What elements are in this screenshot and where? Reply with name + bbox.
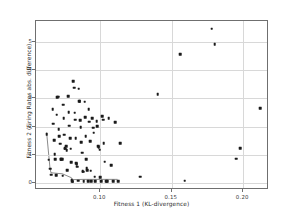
data-point [74, 137, 77, 140]
data-point [52, 108, 55, 111]
data-point [76, 165, 79, 168]
data-point [54, 158, 57, 161]
data-point [211, 27, 214, 30]
data-point [88, 120, 91, 123]
y-tick-label: 5 [22, 38, 32, 44]
data-point [53, 139, 56, 142]
data-point [179, 53, 182, 56]
data-point [84, 116, 87, 119]
gridline-horizontal [36, 98, 267, 99]
data-point [70, 161, 73, 164]
data-point [65, 149, 68, 152]
y-tick-mark [32, 126, 35, 127]
y-tick-mark [32, 41, 35, 42]
data-point [156, 93, 159, 96]
data-point [82, 180, 85, 183]
data-point [62, 103, 65, 106]
data-point [235, 157, 238, 160]
data-point [89, 169, 92, 172]
data-point [114, 121, 117, 124]
data-point [58, 135, 61, 138]
data-point [108, 117, 111, 120]
data-point [50, 173, 53, 176]
data-point [83, 101, 86, 104]
y-tick-mark [32, 97, 35, 98]
data-point [77, 88, 80, 91]
data-point [72, 180, 75, 183]
data-point [101, 115, 104, 118]
gridline-vertical [172, 21, 173, 188]
gridline-vertical [243, 21, 244, 188]
data-point [72, 80, 75, 83]
y-tick-mark [32, 69, 35, 70]
data-point [95, 120, 98, 123]
data-point [88, 108, 91, 111]
data-point [89, 140, 92, 143]
data-point [68, 124, 71, 127]
data-point [103, 142, 106, 145]
data-point [45, 133, 48, 136]
data-point [74, 119, 77, 122]
data-point [67, 95, 70, 98]
data-point [103, 160, 106, 163]
data-point [85, 158, 88, 161]
x-tick-label: 0.20 [236, 194, 249, 200]
data-point [139, 175, 142, 178]
data-point [239, 147, 242, 150]
data-point [84, 135, 87, 138]
x-axis-label: Fitness 1 (KL-divergence) [35, 201, 268, 207]
data-point [92, 126, 95, 129]
scatter-plot-figure: Fitness 2 (Firing Rates abs. difference)… [0, 0, 283, 216]
gridline-horizontal [36, 155, 267, 156]
data-point [62, 117, 65, 120]
gridline-horizontal [36, 42, 267, 43]
data-point [90, 180, 93, 183]
data-point [100, 180, 103, 183]
data-point [80, 141, 83, 144]
data-point [94, 180, 97, 183]
data-point [61, 158, 64, 161]
data-point [99, 176, 102, 179]
x-tick-mark [99, 189, 100, 192]
data-point [183, 179, 186, 182]
data-point [57, 95, 60, 98]
y-tick-mark [32, 154, 35, 155]
data-point [73, 111, 76, 114]
data-point [98, 148, 101, 151]
data-point [53, 153, 56, 156]
data-point [58, 128, 61, 131]
x-tick-mark [242, 189, 243, 192]
x-tick-label: 0.15 [164, 194, 177, 200]
data-point [119, 142, 122, 145]
y-tick-label: 0 [22, 179, 32, 185]
gridline-horizontal [36, 183, 267, 184]
data-point [259, 107, 262, 110]
data-point [79, 119, 82, 122]
data-point [68, 111, 71, 114]
data-point [96, 125, 99, 128]
data-point [48, 159, 51, 162]
x-tick-label: 0.10 [93, 194, 106, 200]
data-point [80, 126, 83, 129]
data-point [78, 100, 81, 103]
data-point [110, 164, 113, 167]
data-point [213, 43, 216, 46]
data-point [112, 180, 115, 183]
data-point [117, 180, 120, 183]
data-point [69, 147, 72, 150]
data-point [69, 137, 72, 140]
data-point [73, 86, 76, 89]
gridline-horizontal [36, 70, 267, 71]
data-point [93, 175, 96, 178]
data-point [65, 145, 68, 148]
data-point [52, 123, 55, 126]
data-point [66, 169, 69, 172]
y-tick-label: 2 [22, 123, 32, 129]
data-point [81, 151, 84, 154]
data-point [55, 174, 58, 177]
data-point [59, 142, 62, 145]
y-tick-mark [32, 182, 35, 183]
data-point [82, 170, 85, 173]
gridline-vertical [100, 21, 101, 188]
y-tick-label: 3 [22, 94, 32, 100]
